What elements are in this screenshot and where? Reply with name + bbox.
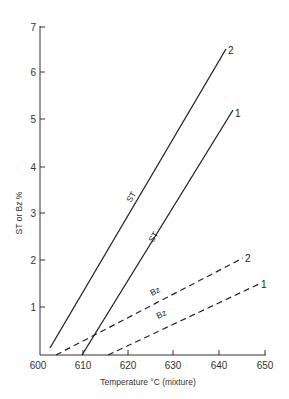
bz-run1-end-label: 1 [261,279,267,290]
y-tick-1: 1 [30,302,36,313]
y-tick-labels: 7 6 5 4 3 2 1 [30,22,36,313]
bz-run2-line [56,258,243,355]
x-tick-labels: 600 610 620 630 640 650 [30,360,274,371]
x-tick-610: 610 [75,360,92,371]
y-axis-label: ST or Bz % [14,191,24,234]
y-tick-6: 6 [30,67,36,78]
bz-run2-label: Bz [148,284,161,297]
bz-run2-end-label: 2 [245,253,251,264]
x-axis-label: Temperature °C (mixture) [100,377,196,387]
y-tick-4: 4 [30,162,36,173]
y-tick-5: 5 [30,114,36,125]
st-run2-line [50,49,226,348]
bz-run1-label: Bz [155,308,168,321]
st-run2-end-label: 2 [228,45,234,56]
x-tick-620: 620 [120,360,137,371]
axes [40,26,266,355]
x-tick-640: 640 [211,360,228,371]
x-tick-650: 650 [257,360,274,371]
bz-run1-line [108,284,259,355]
y-tick-3: 3 [30,208,36,219]
chart: 7 6 5 4 3 2 1 600 610 620 630 640 650 Te… [0,0,289,399]
st-run1-end-label: 1 [235,108,241,119]
y-tick-2: 2 [30,255,36,266]
x-tick-600: 600 [30,360,47,371]
y-tick-7: 7 [30,22,36,33]
x-tick-630: 630 [165,360,182,371]
